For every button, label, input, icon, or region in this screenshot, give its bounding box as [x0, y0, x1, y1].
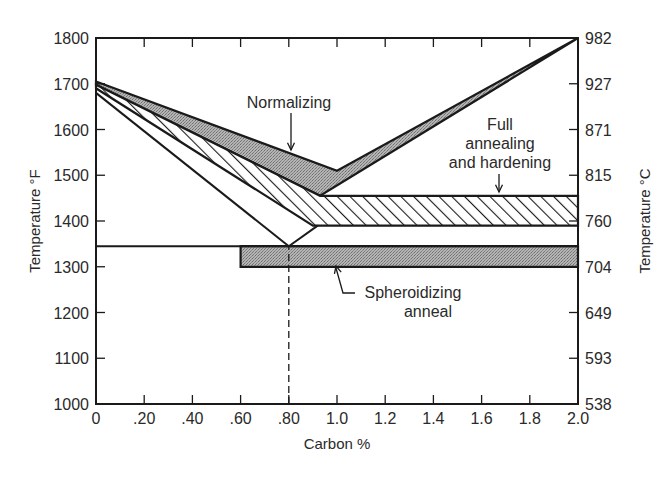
full-annealing-label-3: and hardening: [449, 154, 551, 171]
x-tick-label: 1.0: [326, 410, 348, 427]
y-tick-label-left: 1800: [53, 30, 89, 47]
y-tick-label-right: 927: [585, 76, 612, 93]
chart-labels: Carbon % Temperature °F Temperature °C N…: [26, 94, 653, 452]
x-tick-label: 1.8: [519, 410, 541, 427]
x-tick-label: .60: [229, 410, 251, 427]
x-tick-label: 0: [92, 410, 101, 427]
normalizing-label: Normalizing: [247, 94, 331, 111]
full-annealing-label-2: annealing: [465, 135, 534, 152]
heat-treatment-chart: 0.20.40.60.801.01.21.41.61.82.0180098217…: [0, 0, 672, 479]
y-tick-label-left: 1600: [53, 122, 89, 139]
y-tick-label-left: 1700: [53, 76, 89, 93]
y-axis-title-right: Temperature °C: [636, 168, 653, 273]
x-tick-label: 1.6: [470, 410, 492, 427]
y-tick-label-left: 1300: [53, 259, 89, 276]
spheroidizing-leader: [336, 268, 355, 293]
x-tick-label: 1.4: [422, 410, 444, 427]
region-spheroidizing-anneal: [241, 246, 578, 267]
y-tick-label-left: 1400: [53, 213, 89, 230]
y-tick-label-left: 1100: [55, 350, 90, 367]
spheroidizing-label-1: Spheroidizing: [365, 284, 462, 301]
y-tick-label-right: 704: [585, 259, 612, 276]
spheroidizing-label-2: anneal: [404, 303, 452, 320]
full-annealing-label-1: Full: [487, 116, 513, 133]
y-tick-label-right: 593: [585, 350, 612, 367]
y-tick-label-right: 649: [585, 305, 612, 322]
y-tick-label-right: 982: [585, 30, 612, 47]
x-tick-label: 1.2: [374, 410, 396, 427]
y-tick-label-left: 1000: [53, 396, 89, 413]
y-tick-label-right: 538: [585, 396, 612, 413]
y-tick-label-left: 1500: [53, 167, 89, 184]
y-tick-label-left: 1200: [53, 305, 89, 322]
y-tick-label-right: 760: [585, 213, 612, 230]
plot-area: 0.20.40.60.801.01.21.41.61.82.0180098217…: [53, 30, 611, 427]
x-tick-label: .40: [181, 410, 203, 427]
x-tick-label: .20: [133, 410, 155, 427]
acm-line: [289, 226, 318, 247]
y-tick-label-right: 815: [585, 167, 612, 184]
x-tick-label: .80: [278, 410, 300, 427]
x-axis-title: Carbon %: [304, 435, 371, 452]
y-axis-title-left: Temperature °F: [26, 169, 43, 273]
y-tick-label-right: 871: [585, 122, 612, 139]
